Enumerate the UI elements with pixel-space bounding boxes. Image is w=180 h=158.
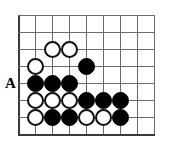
black-stone	[61, 75, 78, 92]
black-stone	[112, 92, 129, 109]
grid-line-horizontal	[18, 32, 155, 33]
black-stone	[78, 92, 95, 109]
point-label-a: A	[5, 76, 16, 91]
white-stone	[27, 92, 44, 109]
white-stone	[27, 58, 44, 75]
black-stone	[44, 109, 61, 126]
white-stone	[95, 109, 112, 126]
black-stone	[27, 75, 44, 92]
grid-line-horizontal	[18, 49, 155, 50]
black-stone	[112, 109, 129, 126]
black-stone	[44, 75, 61, 92]
black-stone	[78, 58, 95, 75]
board-edge-line-horizontal	[18, 134, 155, 136]
black-stone	[61, 109, 78, 126]
white-stone	[61, 92, 78, 109]
white-stone	[44, 92, 61, 109]
go-board-diagram: A	[0, 0, 180, 158]
white-stone	[27, 109, 44, 126]
black-stone	[95, 92, 112, 109]
white-stone	[44, 41, 61, 58]
white-stone	[78, 109, 95, 126]
white-stone	[61, 41, 78, 58]
grid-line-horizontal	[18, 15, 155, 16]
